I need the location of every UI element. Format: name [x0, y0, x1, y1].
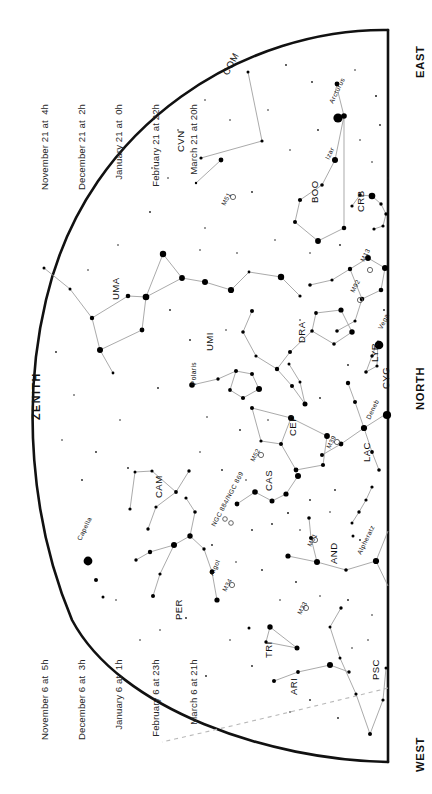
zenith-label: ZENITH [30, 372, 42, 420]
constellation-label: AND [328, 543, 339, 564]
constellation-label: LAC [361, 442, 372, 462]
date-line: November 6 at 5h [39, 659, 51, 740]
star-chart: COMCVNUMAUMIBOOCRBDRALYRCYGCEPLACCASCAMA… [0, 0, 432, 794]
constellation-label: UMI [204, 332, 215, 351]
date-block-upper: November 21 at 4h December 21 at 2h Janu… [14, 104, 225, 190]
star-label: Arcturus [328, 76, 347, 104]
date-line: March 6 at 21h [188, 659, 200, 740]
constellation-label: PSC [370, 659, 381, 680]
deep-sky-label: M34 [221, 577, 234, 592]
constellation-label: UMA [110, 277, 121, 300]
deep-sky-label: M31 [306, 532, 319, 547]
constellation-label: CEP [287, 415, 298, 436]
star-label: Polaris [190, 362, 197, 385]
deep-sky-label: M33 [296, 600, 309, 615]
date-line: February 6 at 23h [150, 659, 162, 740]
date-block-lower: November 6 at 5h December 6 at 3h Januar… [14, 659, 225, 740]
date-line: January 21 at 0h [113, 104, 125, 190]
date-line: February 21 at 22h [150, 104, 162, 190]
cardinal-east: EAST [414, 45, 426, 78]
constellation-label: DRA [296, 321, 307, 343]
star-label: Capella [76, 516, 94, 542]
star-label: Deneb [365, 398, 381, 420]
date-line: January 6 at 1h [113, 659, 125, 740]
constellation-label: PER [173, 599, 184, 620]
star-label: Algol [208, 558, 223, 577]
constellation-label: CYG [380, 367, 391, 389]
constellation-label: ARI [288, 678, 299, 695]
date-line: March 21 at 20h [188, 104, 200, 190]
deep-sky-label: M51 [220, 191, 233, 206]
constellation-label: CAM [153, 475, 164, 498]
constellation-label: CRB [355, 191, 366, 212]
deep-sky-objects [223, 194, 373, 610]
deep-sky-label: M92 [349, 278, 362, 293]
cardinal-west: WEST [414, 737, 426, 772]
date-line: December 21 at 2h [76, 104, 88, 190]
deep-sky-label: M52 [249, 447, 262, 462]
constellation-label: TRI [263, 641, 274, 658]
constellation-label: LYR [369, 343, 380, 362]
constellation-label: CAS [263, 470, 274, 491]
cardinal-north: NORTH [414, 367, 426, 410]
date-line: December 6 at 3h [76, 659, 88, 740]
constellation-label: BOO [309, 180, 320, 203]
star-label: Alpheratz [356, 524, 377, 556]
date-line: November 21 at 4h [39, 104, 51, 190]
